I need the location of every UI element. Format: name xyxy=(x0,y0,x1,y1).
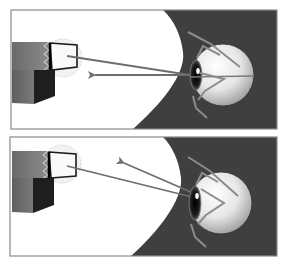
screen-face xyxy=(49,152,76,178)
box-lower-front xyxy=(12,178,33,213)
optical-axis-line xyxy=(190,76,254,77)
panel-bottom xyxy=(10,137,277,256)
diagram-svg xyxy=(0,0,286,265)
box-lower-front xyxy=(12,70,34,104)
panel-top xyxy=(11,10,277,129)
lens-highlight xyxy=(196,68,200,74)
diagram-figure xyxy=(0,0,286,265)
eye-lens-icon xyxy=(190,60,202,90)
lens-highlight xyxy=(195,193,199,199)
pupil-icon xyxy=(193,201,197,205)
